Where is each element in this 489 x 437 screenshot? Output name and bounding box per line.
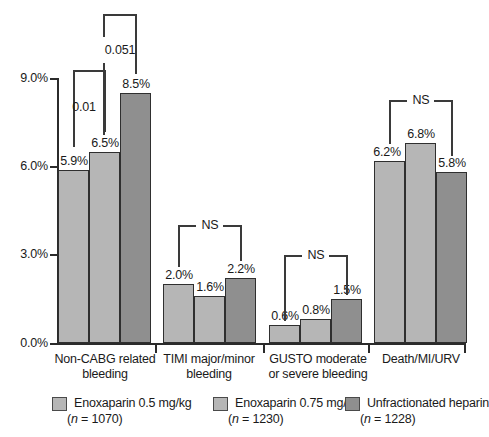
y-tick-label-2: 6.0% (0, 160, 48, 172)
bracket-label-g0-a: 0.01 (62, 101, 106, 114)
legend-item-0: Enoxaparin 0.5 mg/kg (n = 1070) (52, 396, 192, 427)
legend-n-value-2: = 1228) (374, 412, 415, 426)
legend-n-italic-1: n (232, 412, 239, 426)
legend-item-2: Unfractionated heparin (n = 1228) (345, 396, 489, 427)
legend-n-1: (n = 1230) (228, 412, 359, 428)
legend-n-2: (n = 1228) (360, 412, 489, 428)
y-tick-label-3: 9.0% (0, 72, 48, 84)
legend-swatch-icon-1 (213, 397, 228, 411)
category-label-0-line-0: Non-CABG related (50, 352, 160, 367)
bracket-g3-left (389, 100, 391, 144)
bar-g1-s1 (194, 296, 225, 343)
bracket-g1-left (178, 225, 180, 267)
bar-value-g0-s2: 8.5% (118, 78, 154, 91)
bracket-g2-right (346, 255, 348, 295)
bracket-g1-right (240, 225, 242, 261)
bracket-label-g3: NS (407, 94, 435, 107)
bracket-g2-left (284, 255, 286, 321)
legend-item-1: Enoxaparin 0.75 mg/kg (n = 1230) (213, 396, 359, 427)
bar-g1-s2 (225, 278, 256, 343)
bar-g2-s2 (331, 299, 362, 343)
y-tick-3 (50, 78, 58, 80)
bracket-label-g0-b: 0.051 (92, 44, 148, 57)
bar-value-g1-s2: 2.2% (223, 263, 259, 276)
bar-g3-s2 (436, 172, 467, 343)
legend-n-italic-0: n (71, 412, 78, 426)
legend-n-value-1: = 1230) (242, 412, 283, 426)
bar-value-g3-s0: 6.2% (369, 146, 405, 159)
bar-value-g3-s1: 6.8% (403, 128, 439, 141)
x-axis-line (57, 343, 466, 345)
bracket-g0-b-top (103, 14, 136, 16)
bar-g2-s0 (269, 325, 300, 343)
category-label-0-line-1: bleeding (50, 367, 160, 382)
plot-area: 0.0% 3.0% 6.0% 9.0% 5.9% 6.5% 8.5% 0.01 (0, 0, 480, 380)
y-tick-1 (50, 254, 58, 256)
y-tick-0 (50, 343, 58, 345)
y-tick-label-1: 3.0% (0, 248, 48, 260)
legend-n-italic-2: n (364, 412, 371, 426)
bracket-g3-right (451, 100, 453, 156)
bar-value-g3-s2: 5.8% (434, 157, 470, 170)
category-label-1-line-0: TIMI major/minor (154, 352, 264, 367)
legend-n-value-0: = 1070) (81, 412, 122, 426)
bar-g2-s1 (300, 319, 331, 343)
category-label-2-line-1: or severe bleeding (258, 367, 378, 382)
legend-swatch-icon-0 (52, 397, 67, 411)
bar-value-g0-s1: 6.5% (87, 137, 123, 150)
bracket-g1-top-right (223, 225, 241, 227)
legend-swatch-icon-2 (345, 397, 360, 411)
bar-g1-s0 (163, 284, 194, 343)
bar-value-g2-s1: 0.8% (298, 304, 334, 317)
legend: Enoxaparin 0.5 mg/kg (n = 1070) Enoxapar… (0, 396, 480, 437)
legend-label-1: Enoxaparin 0.75 mg/kg (235, 396, 359, 412)
bracket-g3-top-right (434, 100, 452, 102)
legend-label-2: Unfractionated heparin (367, 396, 489, 412)
bracket-g0-b-stem (103, 63, 105, 135)
bar-g3-s1 (405, 143, 436, 343)
category-label-1-line-1: bleeding (154, 367, 264, 382)
legend-n-0: (n = 1070) (67, 412, 192, 428)
bar-g3-s0 (374, 161, 405, 343)
bracket-g1-top-left (178, 225, 196, 227)
bracket-label-g2: NS (302, 249, 330, 262)
bar-g0-s1 (89, 152, 120, 343)
bar-value-g0-s0: 5.9% (56, 155, 92, 168)
y-tick-label-0: 0.0% (0, 337, 48, 349)
bracket-g0-a-top (73, 70, 105, 72)
bar-value-g1-s1: 1.6% (192, 281, 228, 294)
legend-label-0: Enoxaparin 0.5 mg/kg (74, 396, 192, 412)
category-label-3-line-0: Death/MI/URV (366, 352, 476, 367)
bracket-g2-top-right (329, 255, 347, 257)
bracket-g3-top-left (389, 100, 407, 102)
category-label-2-line-0: GUSTO moderate (258, 352, 378, 367)
bracket-g0-b-left (103, 14, 105, 37)
bar-g0-s2 (120, 93, 151, 343)
bar-g0-s0 (58, 170, 89, 343)
bracket-label-g1: NS (196, 219, 224, 232)
bracket-g2-top-left (284, 255, 302, 257)
